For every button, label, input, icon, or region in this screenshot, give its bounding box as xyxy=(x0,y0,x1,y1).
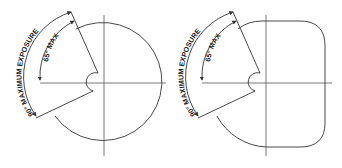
exposure-diagram: 90° MAXIMUM EXPOSURE 65° MAX 90° MAXIMUM… xyxy=(0,0,342,168)
inner-arc-label: 65° MAX xyxy=(41,31,61,62)
rounded-square-outline xyxy=(217,21,325,147)
exposure-sector xyxy=(198,12,260,118)
circle-outline xyxy=(55,23,162,141)
circle-figure: 90° MAXIMUM EXPOSURE 65° MAX xyxy=(14,12,166,156)
rounded-square-figure: 90° MAXIMUM EXPOSURE 65° MAX xyxy=(176,12,332,156)
outer-arc-label: 90° MAXIMUM EXPOSURE xyxy=(176,26,202,118)
exposure-sector xyxy=(36,12,98,118)
outer-arc-label: 90° MAXIMUM EXPOSURE xyxy=(14,26,40,118)
inner-arc-label: 65° MAX xyxy=(203,31,223,62)
